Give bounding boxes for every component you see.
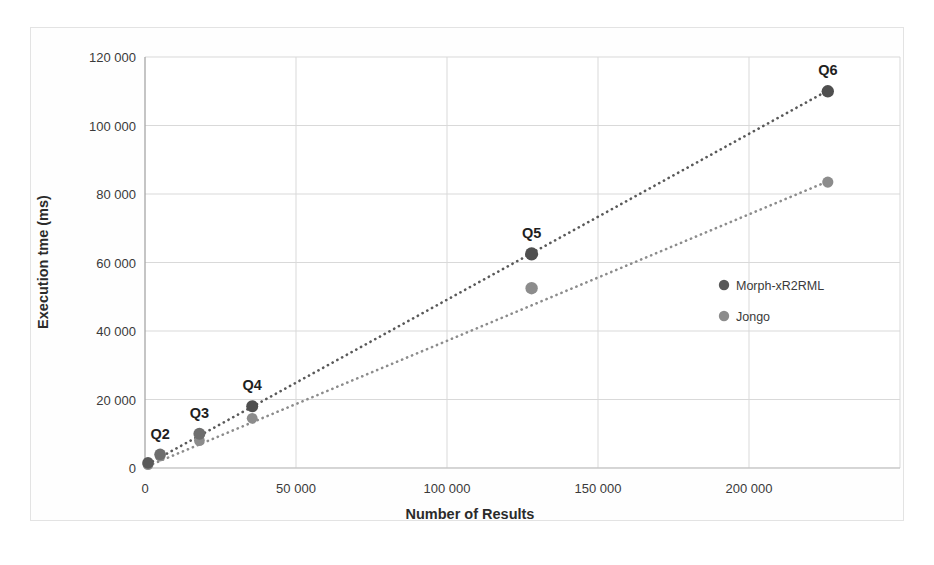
x-axis-title: Number of Results (406, 506, 535, 522)
y-tick-label-100000: 100 000 (89, 119, 136, 134)
data-point-jongo-q5 (525, 282, 537, 294)
x-tick-label-0: 0 (141, 481, 148, 496)
annotation-q2: Q2 (150, 426, 169, 442)
figure-container: Q2 Q3 Q4 Q5 Q6 120 000 100 000 80 000 60… (0, 0, 934, 565)
data-point-morph-q2 (154, 449, 166, 461)
data-point-jongo-q4 (247, 413, 258, 424)
annotation-q3: Q3 (190, 405, 209, 421)
legend-label-jongo: Jongo (736, 310, 770, 324)
y-tick-label-20000: 20 000 (96, 393, 136, 408)
data-point-morph-q4 (246, 400, 258, 412)
data-point-morph-q5 (525, 247, 538, 260)
y-tick-label-40000: 40 000 (96, 324, 136, 339)
data-point-morph-q3 (193, 428, 205, 440)
data-point-morph-q1 (142, 457, 154, 469)
x-tick-label-100000: 100 000 (424, 481, 471, 496)
y-axis-title: Execution tme (ms) (35, 195, 51, 329)
x-tick-label-150000: 150 000 (575, 481, 622, 496)
legend-marker-jongo (719, 311, 729, 321)
x-tick-label-50000: 50 000 (276, 481, 316, 496)
y-tick-label-120000: 120 000 (89, 50, 136, 65)
legend-label-morph-xr2rml: Morph-xR2RML (736, 279, 824, 293)
annotation-q6: Q6 (818, 62, 837, 78)
data-point-jongo-q6 (822, 177, 833, 188)
y-tick-label-0: 0 (129, 461, 136, 476)
data-point-morph-q6 (822, 85, 834, 97)
annotation-q4: Q4 (243, 377, 262, 393)
legend-marker-morph-xr2rml (719, 280, 729, 290)
y-tick-label-60000: 60 000 (96, 256, 136, 271)
x-tick-label-200000: 200 000 (726, 481, 773, 496)
annotation-q5: Q5 (522, 225, 541, 241)
scatter-chart: Q2 Q3 Q4 Q5 Q6 120 000 100 000 80 000 60… (0, 0, 934, 565)
y-tick-label-80000: 80 000 (96, 187, 136, 202)
